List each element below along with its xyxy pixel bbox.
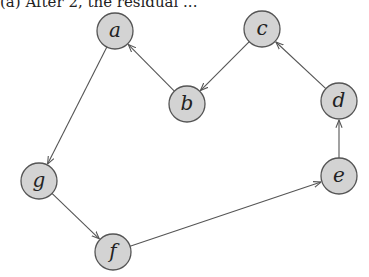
edge-d-to-c: [276, 42, 326, 89]
node-label-c: c: [256, 16, 267, 40]
nodes-layer: abcdefg: [21, 11, 357, 270]
node-e: e: [321, 158, 357, 194]
node-d: d: [321, 83, 357, 119]
node-label-a: a: [109, 18, 121, 42]
directed-graph: abcdefg: [0, 0, 369, 277]
node-f: f: [95, 234, 131, 270]
edges-layer: [48, 42, 339, 247]
edge-g-to-f: [52, 193, 99, 238]
node-c: c: [244, 11, 280, 47]
node-g: g: [21, 163, 57, 199]
edge-f-to-e: [130, 182, 321, 246]
node-a: a: [97, 13, 133, 49]
node-label-g: g: [33, 168, 46, 192]
edge-a-to-g: [48, 47, 107, 164]
edge-c-to-b: [200, 42, 249, 91]
edge-b-to-a: [128, 45, 174, 92]
node-b: b: [169, 86, 205, 122]
node-label-d: d: [333, 88, 346, 112]
node-label-e: e: [333, 163, 345, 187]
node-label-b: b: [181, 91, 194, 115]
